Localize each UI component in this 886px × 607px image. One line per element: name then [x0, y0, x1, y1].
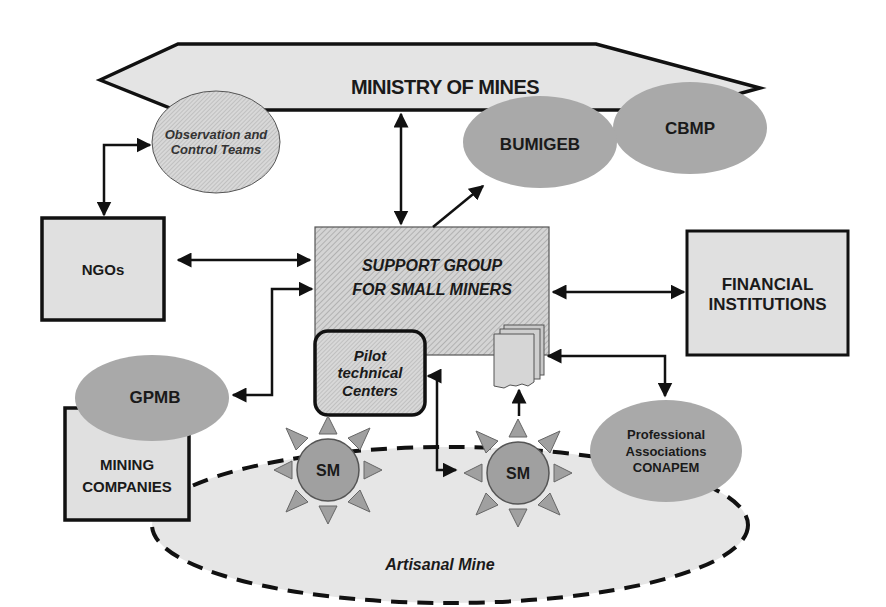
arrow-documents-professional [548, 356, 665, 396]
professional-label: Professional Associations CONAPEM [604, 422, 728, 482]
financial-line1: FINANCIAL [722, 275, 814, 295]
arrow-gpmb-support [233, 289, 312, 395]
professional-line3: CONAPEM [633, 460, 699, 477]
artisanal-mine-label: Artisanal Mine [350, 553, 530, 577]
support-group-label: SUPPORT GROUP FOR SMALL MINERS [315, 238, 549, 318]
professional-line1: Professional [627, 427, 705, 444]
gpmb-label: GPMB [100, 386, 210, 410]
documents-icon [494, 325, 544, 388]
cbmp-label: CBMP [640, 117, 740, 141]
financial-label: FINANCIAL INSTITUTIONS [687, 270, 848, 320]
pilot-line1: Pilot [354, 347, 387, 364]
support-group-line1: SUPPORT GROUP [362, 254, 502, 278]
financial-line2: INSTITUTIONS [708, 295, 826, 315]
pilot-line2: technical [337, 364, 402, 381]
mining-companies-line2: COMPANIES [82, 476, 172, 498]
observation-label-text: Observation and Control Teams [160, 128, 272, 158]
pilot-label: Pilot technical Centers [315, 335, 425, 411]
bumigeb-label: BUMIGEB [480, 133, 600, 157]
mining-companies-label: MINING COMPANIES [65, 452, 189, 500]
arrow-support-bumigeb [433, 186, 483, 227]
ngos-label: NGOs [42, 258, 164, 282]
support-group-line2: FOR SMALL MINERS [352, 278, 512, 302]
professional-line2: Associations [626, 444, 707, 461]
arrow-observation-ngos [104, 145, 150, 215]
observation-label: Observation and Control Teams [160, 112, 272, 174]
sm1-label: SM [308, 460, 348, 482]
mining-companies-line1: MINING [100, 454, 154, 476]
ministry-label: MINISTRY OF MINES [320, 72, 570, 102]
pilot-line3: Centers [342, 382, 398, 399]
sm2-label: SM [498, 463, 538, 485]
